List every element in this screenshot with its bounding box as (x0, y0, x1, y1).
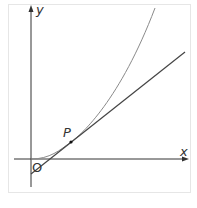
y-axis-label: y (36, 3, 44, 16)
point-p-label: P (63, 126, 71, 139)
tangent-line (31, 52, 185, 174)
curve (31, 8, 155, 159)
x-axis-label: x (180, 145, 188, 158)
y-axis-arrow-icon (29, 5, 34, 12)
point-p (69, 140, 72, 143)
origin-label: O (32, 161, 42, 174)
graph (0, 0, 197, 208)
